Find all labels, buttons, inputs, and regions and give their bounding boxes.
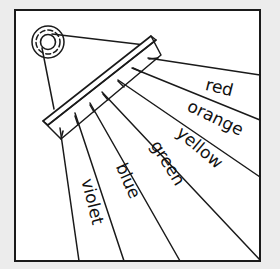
source-core [41, 35, 56, 50]
prism-spectrum-diagram: red orange yellow green blue violet [0, 0, 280, 269]
prism-ray-stub-7 [149, 58, 158, 59]
diagram-canvas: red orange yellow green blue violet [0, 0, 280, 269]
